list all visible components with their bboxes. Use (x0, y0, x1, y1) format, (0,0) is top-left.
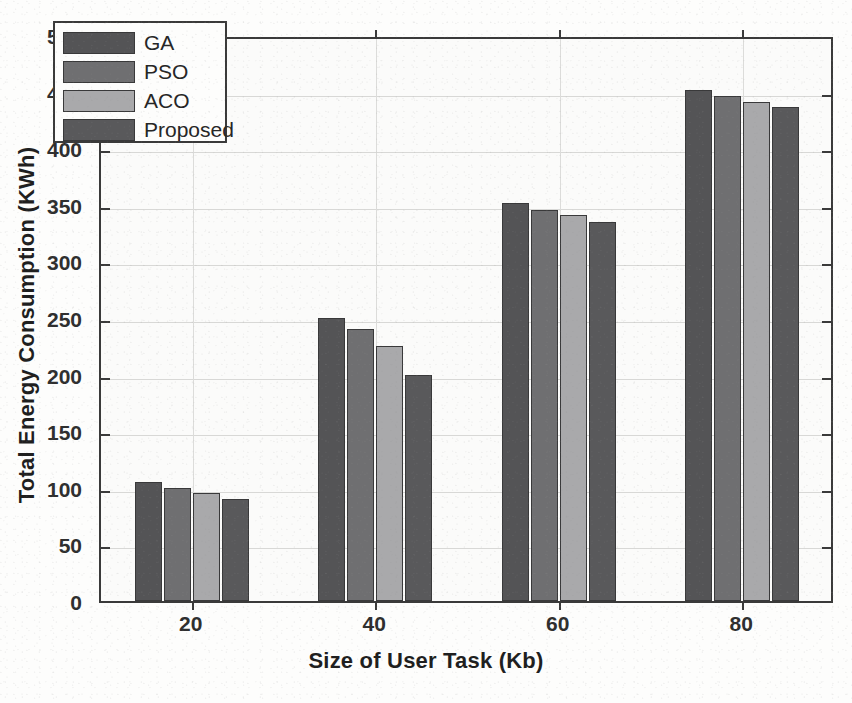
legend-label-pso: PSO (144, 61, 188, 82)
y-axis-tick (101, 491, 110, 493)
y-axis-tick (101, 208, 110, 210)
legend-item-ga: GA (55, 29, 225, 56)
bar-pso-40 (347, 329, 374, 601)
legend-label-ga: GA (144, 32, 174, 53)
y-axis-tick-right (822, 547, 831, 549)
y-axis-tick-label: 150 (47, 421, 82, 445)
y-axis-tick (101, 321, 110, 323)
y-axis-tick-right (822, 491, 831, 493)
x-axis-tick-label: 20 (179, 612, 202, 636)
y-axis-tick-right (822, 95, 831, 97)
y-axis-tick-label: 300 (47, 251, 82, 275)
y-axis-tick-right (822, 434, 831, 436)
y-axis-tick-label: 200 (47, 365, 82, 389)
bar-aco-60 (560, 215, 587, 601)
legend-label-aco: ACO (144, 90, 190, 111)
x-axis-tick-label: 60 (546, 612, 569, 636)
legend-swatch-proposed (63, 119, 135, 141)
bar-pso-80 (714, 96, 741, 601)
legend-item-proposed: Proposed (55, 116, 225, 143)
bar-proposed-40 (405, 375, 432, 601)
y-axis-tick-label: 350 (47, 195, 82, 219)
bar-aco-20 (193, 493, 220, 601)
bar-ga-80 (685, 90, 712, 601)
y-axis-tick-right (822, 321, 831, 323)
y-axis-tick-right (822, 208, 831, 210)
x-axis-tick-top (559, 30, 561, 39)
chart-legend: GAPSOACOProposed (53, 21, 227, 143)
bar-proposed-20 (222, 499, 249, 601)
bar-ga-60 (502, 203, 529, 601)
legend-swatch-ga (63, 32, 135, 54)
bar-aco-80 (743, 102, 770, 601)
bar-proposed-60 (589, 222, 616, 601)
x-axis-title: Size of User Task (Kb) (0, 648, 852, 674)
y-axis-tick (101, 547, 110, 549)
y-axis-tick-right (822, 378, 831, 380)
x-axis-tick (192, 601, 194, 610)
y-axis-tick (101, 151, 110, 153)
x-axis-tick-top (742, 30, 744, 39)
bar-pso-60 (531, 210, 558, 601)
bar-ga-40 (318, 318, 345, 601)
bar-aco-40 (376, 346, 403, 601)
x-axis-tick (375, 601, 377, 610)
y-axis-tick (101, 434, 110, 436)
y-axis-tick-label: 50 (59, 534, 82, 558)
legend-swatch-pso (63, 61, 135, 83)
x-axis-tick (559, 601, 561, 610)
x-axis-tick-label: 40 (363, 612, 386, 636)
x-axis-tick (742, 601, 744, 610)
legend-item-aco: ACO (55, 87, 225, 114)
x-axis-tick-label: 80 (730, 612, 753, 636)
legend-label-proposed: Proposed (144, 119, 234, 140)
y-axis-tick-label: 250 (47, 308, 82, 332)
figure-container: Total Energy Consumption (KWh) 050100150… (0, 0, 852, 703)
legend-item-pso: PSO (55, 58, 225, 85)
y-axis-tick-right (822, 264, 831, 266)
bar-proposed-80 (772, 107, 799, 601)
y-axis-tick-right (822, 151, 831, 153)
x-axis-tick-labels: 20406080 (99, 612, 833, 642)
y-axis-tick-label: 0 (70, 591, 82, 615)
x-axis-tick-top (375, 30, 377, 39)
y-axis-tick (101, 264, 110, 266)
y-axis-tick (101, 378, 110, 380)
legend-swatch-aco (63, 90, 135, 112)
y-axis-tick-label: 100 (47, 478, 82, 502)
bar-ga-20 (135, 482, 162, 601)
bar-pso-20 (164, 488, 191, 601)
